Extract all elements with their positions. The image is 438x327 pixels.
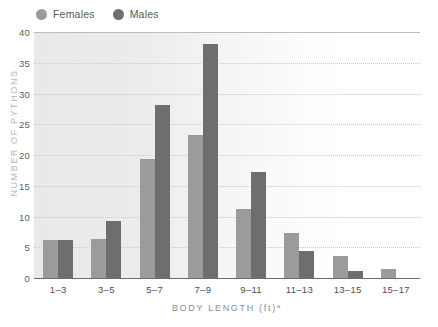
x-axis-tick-label: 5–7 [131, 284, 179, 300]
bar-females-15-17 [381, 269, 396, 278]
x-axis-tick-label: 11–13 [275, 284, 323, 300]
x-axis-tick-label: 9–11 [227, 284, 275, 300]
legend-item-females: Females [36, 9, 95, 20]
y-axis-tick-label: 0 [25, 273, 30, 284]
legend-item-males: Males [113, 9, 159, 20]
bar-group [82, 32, 130, 278]
bar-males-5-7 [155, 105, 170, 278]
circle-swatch-icon [36, 9, 47, 20]
y-axis-tick-label: 35 [19, 57, 30, 68]
plot-area [34, 32, 420, 278]
x-axis-title: BODY LENGTH (ft)* [34, 303, 420, 313]
y-axis-tick-label: 30 [19, 88, 30, 99]
bars-layer [34, 32, 420, 278]
bar-males-9-11 [251, 172, 266, 278]
bar-females-7-9 [188, 135, 203, 278]
x-axis-tick-label: 3–5 [82, 284, 130, 300]
bar-group [324, 32, 372, 278]
legend-label-males: Males [130, 9, 159, 20]
y-axis-tick-label: 40 [19, 27, 30, 38]
python-body-length-bar-chart: Females Males NUMBER OF PYTHONS 05101520… [0, 0, 438, 327]
x-axis-line [34, 278, 420, 279]
x-axis-tick-label: 1–3 [34, 284, 82, 300]
bar-males-3-5 [106, 221, 121, 278]
bar-males-13-15 [348, 271, 363, 278]
bar-group [131, 32, 179, 278]
y-axis-tick-label: 20 [19, 150, 30, 161]
bar-males-11-13 [299, 251, 314, 278]
x-axis-tick-label: 7–9 [179, 284, 227, 300]
bar-females-13-15 [333, 256, 348, 278]
bar-group [34, 32, 82, 278]
x-axis-ticks: 1–33–55–77–99–1111–1313–1515–17 [34, 284, 420, 300]
chart-legend: Females Males [36, 5, 159, 23]
bar-males-1-3 [58, 240, 73, 278]
bar-females-11-13 [284, 233, 299, 279]
bar-females-5-7 [140, 159, 155, 278]
bar-group [372, 32, 420, 278]
bar-females-1-3 [43, 240, 58, 278]
y-axis-tick-label: 15 [19, 180, 30, 191]
x-axis-tick-label: 15–17 [372, 284, 420, 300]
x-axis-tick-label: 13–15 [324, 284, 372, 300]
bar-group [179, 32, 227, 278]
bar-group [227, 32, 275, 278]
legend-label-females: Females [53, 9, 95, 20]
bar-females-9-11 [236, 209, 251, 278]
y-axis-tick-label: 5 [25, 242, 30, 253]
bar-group [275, 32, 323, 278]
y-axis-tick-label: 10 [19, 211, 30, 222]
y-axis-tick-label: 25 [19, 119, 30, 130]
bar-males-7-9 [203, 44, 218, 278]
y-axis-ticks: 0510152025303540 [0, 32, 30, 278]
bar-females-3-5 [91, 239, 106, 278]
circle-swatch-icon [113, 9, 124, 20]
